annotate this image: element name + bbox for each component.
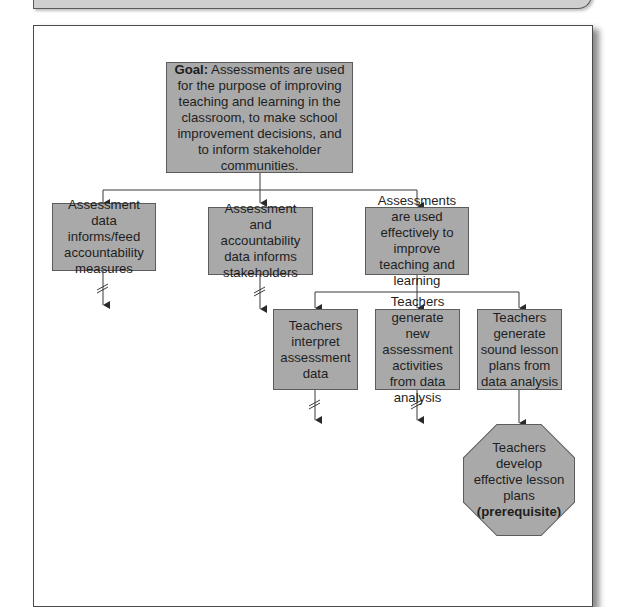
goal-label: Goal: xyxy=(174,62,208,77)
prerequisite-text: Teachers develop effective lesson plans xyxy=(464,440,574,504)
node-informs-stakeholders: Assessment and accountability data infor… xyxy=(208,207,313,275)
prerequisite-label: (prerequisite) xyxy=(477,504,561,520)
node-accountability-measures: Assessment data informs/feed accountabil… xyxy=(52,203,156,271)
goal-text: Assessments are used for the purpose of … xyxy=(177,62,344,173)
node-text: Teachers interpret assessment data xyxy=(278,318,353,382)
top-banner xyxy=(33,0,592,9)
node-text: Teachers generate sound lesson plans fro… xyxy=(480,310,559,390)
node-sound-lesson-plans: Teachers generate sound lesson plans fro… xyxy=(477,309,562,390)
node-text: Teachers generate new assessment activit… xyxy=(378,294,457,406)
goal-box: Goal: Assessments are used for the purpo… xyxy=(166,62,353,173)
node-improve-teaching: Assessments are used effectively to impr… xyxy=(365,207,469,275)
node-text: Assessments are used effectively to impr… xyxy=(370,193,464,289)
node-interpret-data: Teachers interpret assessment data xyxy=(273,309,358,390)
node-text: Assessment data informs/feed accountabil… xyxy=(57,197,151,277)
node-text: Assessment and accountability data infor… xyxy=(213,201,308,281)
node-new-assessment-activities: Teachers generate new assessment activit… xyxy=(375,309,460,390)
